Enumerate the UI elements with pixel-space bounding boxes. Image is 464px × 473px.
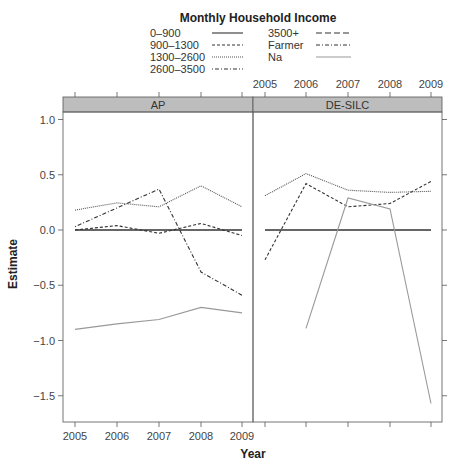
- legend-item: Na: [268, 51, 351, 63]
- legend-label: 0–900: [150, 27, 181, 39]
- y-tick-label: −1.5: [33, 390, 55, 402]
- x-tick-label-top: 2009: [419, 78, 443, 90]
- x-tick-label: 2007: [147, 430, 171, 442]
- y-tick-label: −1.0: [33, 335, 55, 347]
- x-tick-label-top: 2006: [294, 78, 318, 90]
- legend-item: 3500+: [268, 27, 351, 39]
- y-tick-label: 1.0: [40, 114, 55, 126]
- legend-item: 0–900: [150, 27, 243, 39]
- legend-item: 2600–3500: [150, 63, 243, 75]
- legend-item: Farmer: [268, 39, 351, 51]
- series-line: [75, 186, 242, 210]
- x-tick-label-top: 2008: [378, 78, 402, 90]
- strip-label: AP: [151, 99, 166, 111]
- legend-label: 3500+: [268, 27, 299, 39]
- axes: −1.5−1.0−0.50.00.51.02005200620072008200…: [33, 78, 447, 442]
- series-line: [75, 189, 242, 295]
- x-axis-label: Year: [240, 447, 266, 461]
- legend-title: Monthly Household Income: [180, 11, 337, 25]
- series-line: [75, 307, 242, 329]
- legend: Monthly Household Income0–900900–1300130…: [150, 11, 351, 75]
- y-tick-label: 0.5: [40, 169, 55, 181]
- legend-label: Na: [268, 51, 283, 63]
- x-tick-label: 2005: [63, 430, 87, 442]
- x-tick-label: 2008: [189, 430, 213, 442]
- legend-label: 1300–2600: [150, 51, 205, 63]
- y-tick-label: 0.0: [40, 224, 55, 236]
- series-line: [265, 174, 431, 196]
- y-axis-label: Estimate: [6, 239, 20, 289]
- series-line: [265, 181, 431, 259]
- x-tick-label-top: 2005: [253, 78, 277, 90]
- x-tick-label-top: 2007: [336, 78, 360, 90]
- legend-label: Farmer: [268, 39, 304, 51]
- legend-label: 900–1300: [150, 39, 199, 51]
- y-tick-label: −0.5: [33, 279, 55, 291]
- panel-ap: AP: [63, 97, 253, 422]
- panel-de-silc: DE-SILC: [253, 97, 442, 422]
- legend-item: 900–1300: [150, 39, 243, 51]
- strip-label: DE-SILC: [326, 99, 369, 111]
- chart-panels: APDE-SILC: [63, 97, 442, 422]
- panel-frame: [253, 112, 442, 422]
- x-tick-label: 2009: [230, 430, 254, 442]
- panel-frame: [63, 112, 253, 422]
- series-line: [306, 198, 431, 404]
- x-tick-label: 2006: [105, 430, 129, 442]
- legend-label: 2600–3500: [150, 63, 205, 75]
- legend-item: 1300–2600: [150, 51, 243, 63]
- chart: Monthly Household Income0–900900–1300130…: [0, 0, 464, 473]
